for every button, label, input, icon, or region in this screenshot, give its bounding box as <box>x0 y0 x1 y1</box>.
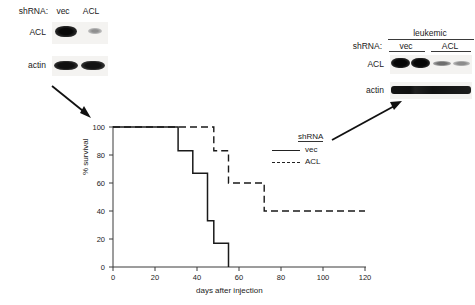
xtick-80: 80 <box>271 273 291 282</box>
legend-label-vec: vec <box>305 145 317 154</box>
arrow-down-right-icon <box>52 86 91 118</box>
legend-label-acl: ACL <box>305 157 321 166</box>
ytick-60: 60 <box>85 179 105 188</box>
x-ticks <box>113 267 365 271</box>
series-vec-curve <box>113 127 229 267</box>
figure-root: shRNA: vec ACL ACL actin leukemic shRNA:… <box>0 0 475 305</box>
arrow-up-right-icon <box>332 101 402 140</box>
survival-chart: 100 80 60 40 20 0 0 20 40 60 80 100 120 … <box>0 0 475 305</box>
xtick-120: 120 <box>355 273 375 282</box>
chart-svg <box>0 0 475 305</box>
xtick-20: 20 <box>145 273 165 282</box>
xtick-100: 100 <box>313 273 333 282</box>
chart-legend: shRNA vec ACL <box>272 132 342 172</box>
xtick-0: 0 <box>103 273 123 282</box>
legend-title: shRNA <box>298 132 323 142</box>
ytick-100: 100 <box>85 123 105 132</box>
y-ticks <box>109 127 113 267</box>
y-axis-title: % survival <box>81 139 90 175</box>
xtick-40: 40 <box>187 273 207 282</box>
legend-swatch-acl <box>272 162 300 163</box>
legend-swatch-vec <box>272 150 300 151</box>
ytick-0: 0 <box>85 263 105 272</box>
x-axis-title: days after injection <box>196 286 263 295</box>
xtick-60: 60 <box>229 273 249 282</box>
ytick-20: 20 <box>85 235 105 244</box>
ytick-40: 40 <box>85 207 105 216</box>
